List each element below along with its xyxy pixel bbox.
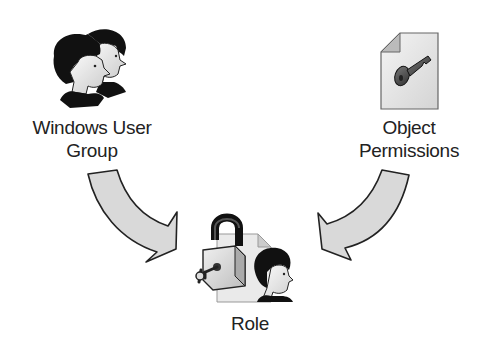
- role-label: Role: [210, 312, 290, 335]
- role-lock-user-icon: [195, 210, 305, 306]
